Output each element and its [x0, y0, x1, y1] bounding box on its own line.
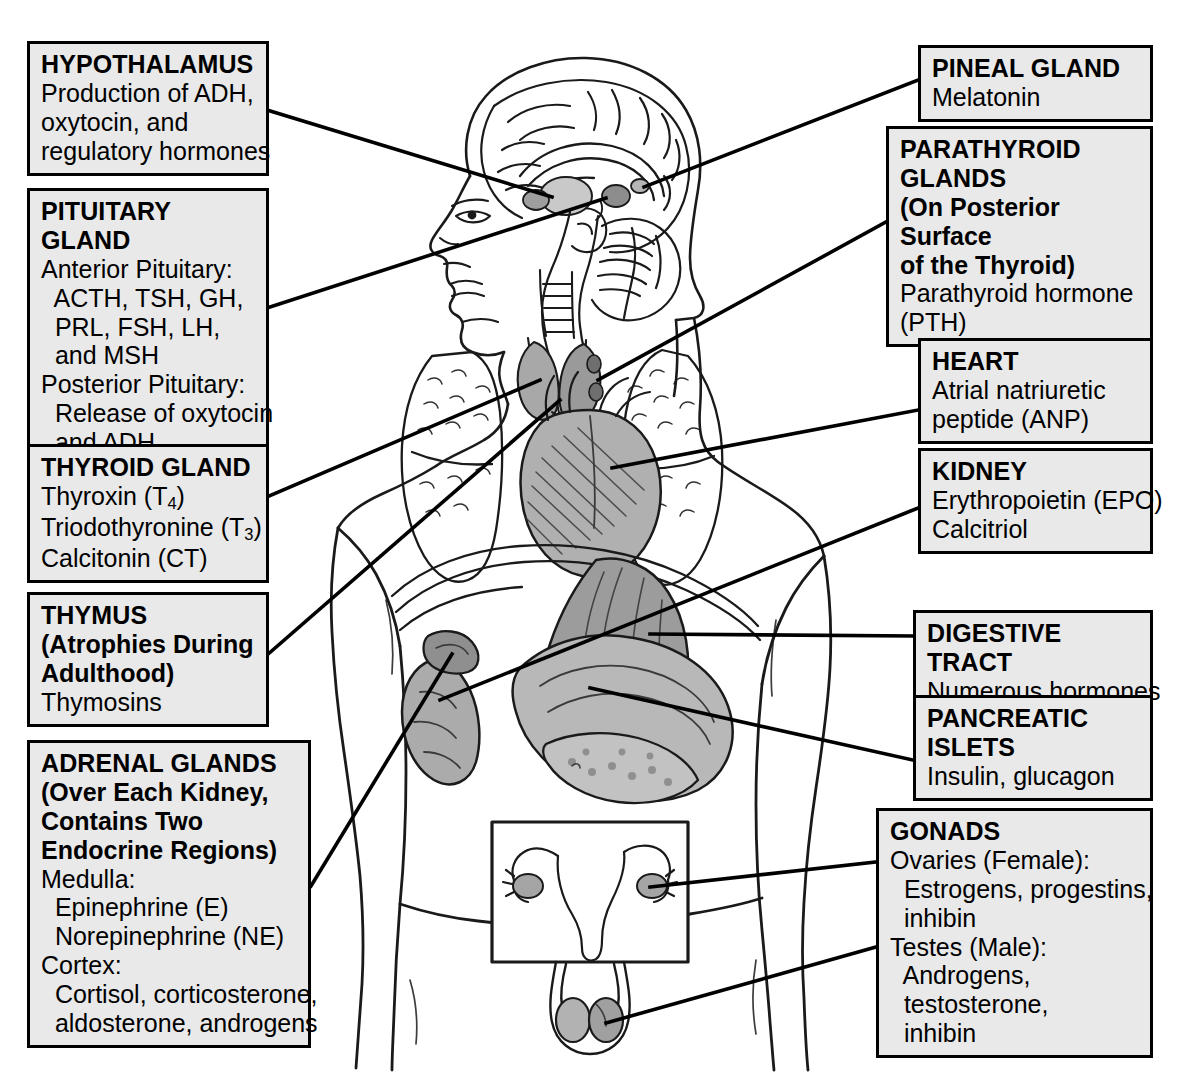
label-box-parathyroid-glands: PARATHYROID GLANDS (On Posterior Surface… [886, 126, 1153, 347]
label-box-pancreatic-islets: PANCREATIC ISLETS Insulin, glucagon [913, 695, 1153, 801]
adrenal-line-2: Epinephrine (E) [41, 893, 299, 922]
label-box-pituitary-gland: PITUITARY GLAND Anterior Pituitary: ACTH… [27, 188, 269, 467]
thymus-subtitle-1: (Atrophies During [41, 630, 257, 659]
hypothalamus-title: HYPOTHALAMUS [41, 50, 257, 79]
leader-kidney [440, 508, 918, 700]
leader-hypothalamus [267, 110, 552, 197]
gonads-line-1: Ovaries (Female): [890, 846, 1141, 875]
adrenal-line-5: Cortisol, corticosterone, [41, 980, 299, 1009]
leader-testis [606, 947, 876, 1023]
heart-line-1: Atrial natriuretic [932, 376, 1141, 405]
pituitary-line-2: ACTH, TSH, GH, [41, 284, 257, 313]
parathyroid-subtitle-1: (On Posterior Surface [900, 193, 1141, 251]
adrenal-line-3: Norepinephrine (NE) [41, 922, 299, 951]
parathyroid-title-2: GLANDS [900, 164, 1141, 193]
leader-digestive [650, 634, 913, 636]
leader-parathyroid [598, 222, 886, 380]
pancreas-title-1: PANCREATIC [927, 704, 1141, 733]
adrenal-line-1: Medulla: [41, 865, 299, 894]
label-box-thymus: THYMUS (Atrophies During Adulthood) Thym… [27, 592, 269, 727]
leader-ovary [650, 862, 876, 887]
kidney-line-1: Erythropoietin (EPO) [932, 486, 1141, 515]
thymus-title: THYMUS [41, 601, 257, 630]
t4-subscript: 4 [167, 494, 176, 512]
thyroid-line-2: Triodothyronine (T3) [41, 513, 257, 544]
endocrine-system-figure: HYPOTHALAMUS Production of ADH, oxytocin… [0, 0, 1179, 1073]
thyroid-line-3: Calcitonin (CT) [41, 544, 257, 573]
gonads-line-3: inhibin [890, 904, 1141, 933]
adrenal-line-6: aldosterone, androgens [41, 1009, 299, 1038]
pituitary-line-4: and MSH [41, 341, 257, 370]
leader-heart [612, 410, 918, 468]
parathyroid-line-2: (PTH) [900, 308, 1141, 337]
label-box-hypothalamus: HYPOTHALAMUS Production of ADH, oxytocin… [27, 41, 269, 176]
pituitary-line-3: PRL, FSH, LH, [41, 313, 257, 342]
thyroid-line-1: Thyroxin (T4) [41, 482, 257, 513]
heart-title: HEART [932, 347, 1141, 376]
adrenal-title: ADRENAL GLANDS [41, 749, 299, 778]
pancreas-title-2: ISLETS [927, 733, 1141, 762]
gonads-line-5: Androgens, [890, 961, 1141, 990]
kidney-title: KIDNEY [932, 457, 1141, 486]
hypothalamus-line-3: regulatory hormones [41, 137, 257, 166]
label-box-gonads: GONADS Ovaries (Female): Estrogens, prog… [876, 808, 1153, 1058]
parathyroid-line-1: Parathyroid hormone [900, 279, 1141, 308]
pituitary-line-6: Release of oxytocin [41, 399, 257, 428]
leader-adrenal [311, 654, 452, 886]
heart-line-2: peptide (ANP) [932, 405, 1141, 434]
thymus-line-1: Thymosins [41, 688, 257, 717]
hypothalamus-line-1: Production of ADH, [41, 79, 257, 108]
gonads-title: GONADS [890, 817, 1141, 846]
label-box-thyroid-gland: THYROID GLAND Thyroxin (T4) Triodothyron… [27, 444, 269, 583]
label-box-pineal-gland: PINEAL GLAND Melatonin [918, 45, 1153, 122]
parathyroid-title-1: PARATHYROID [900, 135, 1141, 164]
thymus-subtitle-2: Adulthood) [41, 659, 257, 688]
adrenal-line-4: Cortex: [41, 951, 299, 980]
leader-pancreas [590, 688, 913, 760]
parathyroid-subtitle-2: of the Thyroid) [900, 251, 1141, 280]
pituitary-line-1: Anterior Pituitary: [41, 255, 257, 284]
gonads-line-6: testosterone, [890, 990, 1141, 1019]
gonads-line-4: Testes (Male): [890, 933, 1141, 962]
gonads-line-7: inhibin [890, 1019, 1141, 1048]
adrenal-subtitle-3: Endocrine Regions) [41, 836, 299, 865]
leader-pineal [644, 80, 918, 187]
digestive-title: DIGESTIVE TRACT [927, 619, 1141, 677]
pineal-title: PINEAL GLAND [932, 54, 1141, 83]
leader-thymus [267, 400, 560, 655]
leader-thyroid [267, 380, 540, 497]
kidney-line-2: Calcitriol [932, 515, 1141, 544]
pancreas-line-1: Insulin, glucagon [927, 762, 1141, 791]
adrenal-subtitle-2: Contains Two [41, 807, 299, 836]
pituitary-title: PITUITARY GLAND [41, 197, 257, 255]
gonads-line-2: Estrogens, progestins, [890, 875, 1141, 904]
pituitary-line-5: Posterior Pituitary: [41, 370, 257, 399]
adrenal-subtitle-1: (Over Each Kidney, [41, 778, 299, 807]
pineal-line-1: Melatonin [932, 83, 1141, 112]
label-box-adrenal-glands: ADRENAL GLANDS (Over Each Kidney, Contai… [27, 740, 311, 1048]
thyroid-title: THYROID GLAND [41, 453, 257, 482]
label-box-heart: HEART Atrial natriuretic peptide (ANP) [918, 338, 1153, 444]
label-box-kidney: KIDNEY Erythropoietin (EPO) Calcitriol [918, 448, 1153, 554]
t3-subscript: 3 [244, 525, 253, 543]
leader-pituitary [267, 198, 606, 308]
hypothalamus-line-2: oxytocin, and [41, 108, 257, 137]
